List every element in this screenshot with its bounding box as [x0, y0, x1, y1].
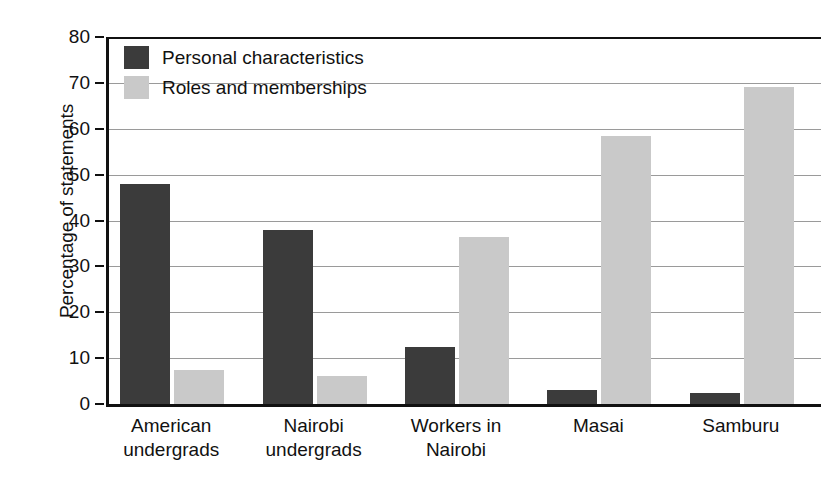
gridline [109, 129, 821, 130]
bar [317, 376, 367, 404]
x-axis-label-line: undergrads [242, 438, 384, 462]
legend-label: Personal characteristics [162, 47, 364, 69]
bar [120, 184, 170, 404]
y-tick-mark [95, 265, 104, 267]
y-tick-mark [95, 36, 104, 38]
bar-chart-figure: Percentage of statements 010203040506070… [0, 0, 826, 491]
legend-item: Roles and memberships [124, 76, 367, 99]
y-tick-label: 0 [28, 394, 90, 413]
x-axis-label-line: Nairobi [385, 438, 527, 462]
x-axis-label: Samburu [670, 414, 812, 438]
gridline [109, 37, 821, 39]
y-tick-mark [95, 311, 104, 313]
chart-legend: Personal characteristicsRoles and member… [124, 46, 367, 99]
x-axis-label-line: Samburu [670, 414, 812, 438]
y-tick-label: 20 [28, 302, 90, 321]
bar [690, 393, 740, 404]
y-tick-label: 10 [28, 348, 90, 367]
y-tick-label: 80 [28, 27, 90, 46]
x-axis-label: Nairobiundergrads [242, 414, 384, 462]
y-tick-mark [95, 174, 104, 176]
x-axis-label-line: Workers in [385, 414, 527, 438]
legend-label: Roles and memberships [162, 77, 367, 99]
legend-item: Personal characteristics [124, 46, 367, 69]
x-axis-label: Americanundergrads [100, 414, 242, 462]
y-tick-mark [95, 357, 104, 359]
x-axis-label-line: undergrads [100, 438, 242, 462]
bar [174, 370, 224, 404]
y-tick-label: 60 [28, 119, 90, 138]
x-axis-label-line: Masai [527, 414, 669, 438]
y-tick-mark [95, 220, 104, 222]
x-axis-label-line: American [100, 414, 242, 438]
y-tick-label: 30 [28, 256, 90, 275]
x-axis-label: Workers inNairobi [385, 414, 527, 462]
y-tick-label: 70 [28, 73, 90, 92]
x-axis-label: Masai [527, 414, 669, 438]
x-axis-label-line: Nairobi [242, 414, 384, 438]
y-tick-label: 50 [28, 165, 90, 184]
legend-swatch [124, 76, 149, 99]
bar [405, 347, 455, 404]
gridline [109, 221, 821, 222]
gridline [109, 175, 821, 176]
y-tick-mark [95, 403, 104, 405]
y-tick-label: 40 [28, 211, 90, 230]
y-tick-mark [95, 128, 104, 130]
y-tick-mark [95, 82, 104, 84]
bar [459, 237, 509, 404]
bar [744, 87, 794, 404]
legend-swatch [124, 46, 149, 69]
bar [601, 136, 651, 404]
bar [263, 230, 313, 404]
bar [547, 390, 597, 404]
